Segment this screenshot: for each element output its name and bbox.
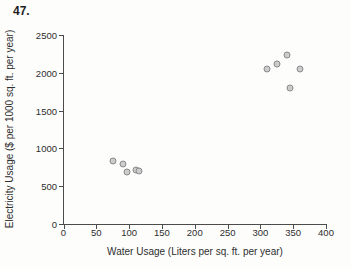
y-tick-label: 0 <box>52 219 57 230</box>
y-axis-line <box>63 35 64 225</box>
page: 47. 050100150200250300350400 05001000150… <box>0 0 351 269</box>
y-tick-mark <box>59 111 64 112</box>
y-tick-mark <box>59 35 64 36</box>
x-tick-label: 150 <box>154 227 170 238</box>
y-tick-label: 500 <box>41 181 57 192</box>
y-tick-label: 2500 <box>36 30 57 41</box>
data-point <box>135 168 142 175</box>
scatter-chart: 050100150200250300350400 050010001500200… <box>0 0 351 269</box>
y-axis-title: Electricity Usage ($ per 1000 sq. ft. pe… <box>4 30 15 228</box>
y-tick-mark <box>59 186 64 187</box>
data-point <box>119 160 126 167</box>
x-tick-label: 100 <box>121 227 137 238</box>
data-point <box>124 168 131 175</box>
x-tick-label: 200 <box>187 227 203 238</box>
y-tick-label: 2000 <box>36 67 57 78</box>
y-tick-mark <box>59 224 64 225</box>
y-tick-mark <box>59 73 64 74</box>
x-tick-label: 50 <box>91 227 102 238</box>
x-tick-label: 250 <box>220 227 236 238</box>
x-tick-label: 300 <box>252 227 268 238</box>
x-axis-title: Water Usage (Liters per sq. ft. per year… <box>107 246 283 257</box>
data-point <box>296 66 303 73</box>
x-tick-label: 0 <box>61 227 66 238</box>
y-tick-label: 1000 <box>36 143 57 154</box>
y-tick-mark <box>59 148 64 149</box>
data-point <box>283 52 290 59</box>
x-tick-label: 400 <box>318 227 334 238</box>
data-point <box>263 66 270 73</box>
data-point <box>109 158 116 165</box>
x-tick-label: 350 <box>285 227 301 238</box>
data-point <box>286 84 293 91</box>
data-point <box>273 61 280 68</box>
y-tick-label: 1500 <box>36 105 57 116</box>
